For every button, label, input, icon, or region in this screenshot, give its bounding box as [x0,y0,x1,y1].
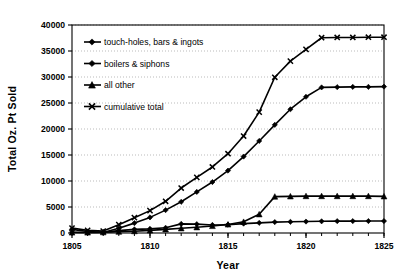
x-tick-label: 1815 [218,241,237,251]
y-tick-label: 35000 [41,46,65,56]
y-tick-label: 15000 [41,150,65,160]
y-tick-label: 30000 [41,72,65,82]
line-chart: 0500010000150002000025000300003500040000… [0,0,406,274]
y-tick-label: 20000 [41,124,65,134]
x-tick-label: 1825 [374,241,393,251]
x-tick-label: 1805 [62,241,81,251]
legend-label: all other [104,80,135,90]
y-tick-label: 10000 [41,176,65,186]
legend-label: touch-holes, bars & ingots [104,37,203,47]
y-tick-label: 0 [60,228,65,238]
y-tick-label: 25000 [41,98,65,108]
legend-label: cumulative total [104,102,164,112]
y-tick-label: 40000 [41,20,65,30]
x-axis: 18051810181518201825 [62,233,393,251]
y-tick-label: 5000 [46,202,65,212]
chart-container: 0500010000150002000025000300003500040000… [0,0,406,274]
x-axis-title: Year [217,259,240,271]
x-tick-label: 1810 [140,241,159,251]
legend-label: boilers & siphons [104,59,169,69]
y-axis: 0500010000150002000025000300003500040000 [41,20,72,238]
y-axis-title: Total Oz. Pt Sold [6,86,18,172]
x-tick-label: 1820 [296,241,315,251]
